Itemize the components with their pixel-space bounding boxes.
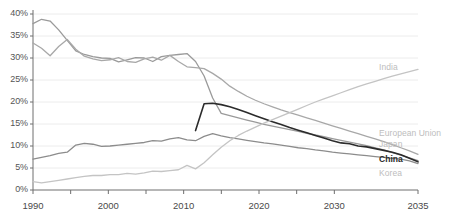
series-line-korea [33,134,418,164]
series-line-india [33,69,418,183]
series-label-india: India [379,62,398,72]
y-tick-label: 0% [0,184,28,194]
series-line-japan [33,19,418,160]
series-label-european-union: European Union [379,128,441,138]
line-chart-plot [0,0,454,219]
x-tick-label: 2000 [83,200,133,211]
series-label-japan: Japan [379,139,402,149]
x-tick-label: 1990 [8,200,58,211]
x-tick-label: 2030 [309,200,359,211]
series-label-china: China [379,154,403,164]
x-tick-label: 2010 [159,200,209,211]
y-tick-label: 40% [0,8,28,18]
x-tick-label: 2035 [393,200,443,211]
series-label-korea: Korea [379,168,402,178]
x-tick-label: 2020 [234,200,284,211]
chart-container: 0%5%10%15%20%25%30%35%40% 19902000201020… [0,0,454,219]
y-tick-label: 15% [0,118,28,128]
y-tick-label: 20% [0,96,28,106]
y-tick-label: 30% [0,52,28,62]
series-group [33,19,418,183]
y-tick-label: 10% [0,140,28,150]
y-tick-label: 25% [0,74,28,84]
y-tick-label: 35% [0,30,28,40]
y-tick-label: 5% [0,162,28,172]
